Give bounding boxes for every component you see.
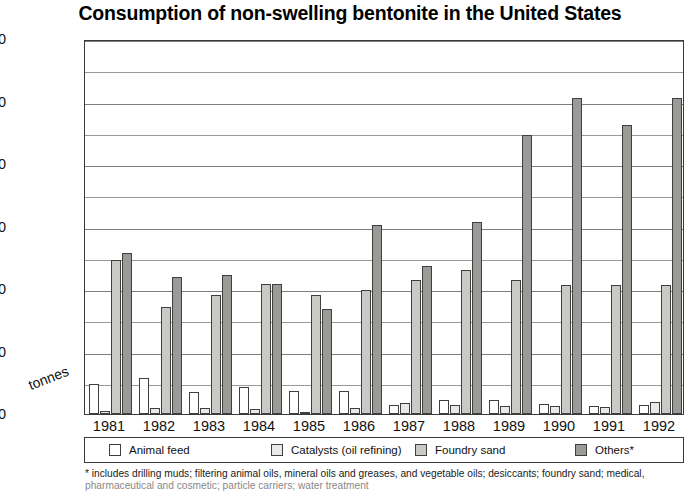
bar-group <box>535 40 585 414</box>
legend-label: Animal feed <box>129 444 190 456</box>
x-axis-tick-label: 1992 <box>629 418 689 434</box>
bar <box>450 405 460 414</box>
y-axis-tick-label: 200,000 <box>0 281 6 297</box>
bar <box>361 290 371 414</box>
legend-label: Others* <box>595 444 634 456</box>
legend-swatch-icon <box>415 444 427 456</box>
bar <box>400 403 410 414</box>
bar <box>239 387 249 415</box>
bar <box>500 406 510 414</box>
bar <box>611 285 621 414</box>
y-axis-tick-label: 500,000 <box>0 94 6 110</box>
bar <box>672 98 682 414</box>
bar <box>172 277 182 414</box>
bar <box>161 307 171 414</box>
bar <box>472 222 482 414</box>
bar <box>89 384 99 414</box>
bar <box>139 378 149 414</box>
y-axis-tick-label: 0 <box>0 406 6 422</box>
footnote-line-1: * includes drilling muds; filtering anim… <box>85 468 697 480</box>
bar-group <box>135 40 185 414</box>
y-axis-tick-label: 600,000 <box>0 31 6 47</box>
legend-item[interactable]: Foundry sand <box>415 444 505 456</box>
y-axis-title: tonnes <box>26 363 71 393</box>
bar <box>661 285 671 414</box>
y-axis-tick-label: 100,000 <box>0 344 6 360</box>
bar <box>639 405 649 414</box>
footnote: * includes drilling muds; filtering anim… <box>85 468 697 491</box>
bar <box>189 392 199 414</box>
bar <box>650 402 660 414</box>
footnote-line-2: pharmaceutical and cosmetic; particle ca… <box>85 480 697 491</box>
bar <box>311 295 321 414</box>
bar-group <box>435 40 485 414</box>
bar <box>622 125 632 414</box>
y-axis-tick-label: 400,000 <box>0 156 6 172</box>
bar <box>511 280 521 414</box>
bar <box>261 284 271 414</box>
legend-label: Catalysts (oil refining) <box>291 444 402 456</box>
bar <box>372 225 382 414</box>
legend-item[interactable]: Others* <box>575 444 634 456</box>
plot-area <box>84 40 684 415</box>
bar <box>489 400 499 414</box>
bar <box>550 406 560 414</box>
bar-group <box>85 40 135 414</box>
bar <box>211 295 221 414</box>
legend-swatch-icon <box>109 444 121 456</box>
bar <box>300 412 310 414</box>
bar <box>222 275 232 414</box>
bar <box>522 135 532 414</box>
bar <box>289 391 299 414</box>
legend-swatch-icon <box>575 444 587 456</box>
bar <box>439 400 449 414</box>
bar <box>572 98 582 414</box>
bar <box>600 407 610 414</box>
bar-group <box>335 40 385 414</box>
bar <box>561 285 571 414</box>
bar <box>339 391 349 414</box>
legend-item[interactable]: Catalysts (oil refining) <box>271 444 402 456</box>
bar <box>272 284 282 414</box>
y-axis-tick-label: 300,000 <box>0 219 6 235</box>
bar-group <box>635 40 684 414</box>
bar-group <box>585 40 635 414</box>
bar <box>250 409 260 414</box>
bar <box>589 406 599 414</box>
bar <box>100 411 110 414</box>
bar <box>322 309 332 414</box>
bar-group <box>235 40 285 414</box>
legend-label: Foundry sand <box>435 444 505 456</box>
bar-group <box>185 40 235 414</box>
page-title: Consumption of non-swelling bentonite in… <box>0 0 700 26</box>
bar <box>422 266 432 414</box>
bar <box>150 408 160 414</box>
bar <box>389 405 399 414</box>
bar <box>122 253 132 414</box>
bar <box>461 270 471 414</box>
bar <box>350 408 360 414</box>
bar-group <box>385 40 435 414</box>
legend-item[interactable]: Animal feed <box>109 444 190 456</box>
legend: Animal feedCatalysts (oil refining)Found… <box>84 437 684 463</box>
bar <box>539 404 549 414</box>
bar-group <box>285 40 335 414</box>
bar <box>411 280 421 414</box>
bar <box>200 408 210 414</box>
bar <box>111 260 121 414</box>
legend-swatch-icon <box>271 444 283 456</box>
bar-group <box>485 40 535 414</box>
